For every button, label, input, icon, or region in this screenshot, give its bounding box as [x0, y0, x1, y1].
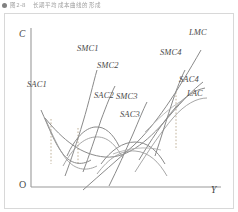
origin-label: O	[19, 180, 26, 189]
figure-caption-number: 图2-8	[10, 2, 26, 9]
screenshot-root: 图2-8 长期平均成本曲线的形成	[0, 0, 238, 212]
x-axis-label: Y	[211, 186, 216, 195]
curve-label-lac: LAC	[187, 89, 203, 98]
curve-label-sac4: SAC4	[179, 75, 199, 84]
figure-caption-title: 长期平均成本曲线的形成	[33, 2, 101, 9]
curve-label-smc3: SMC3	[116, 92, 138, 101]
y-axis-label: C	[19, 30, 25, 39]
curve-label-smc4: SMC4	[160, 48, 182, 57]
axes	[31, 28, 221, 187]
curve-label-sac3: SAC3	[120, 110, 140, 119]
curve-label-lmc: LMC	[189, 28, 207, 37]
cost-curves-plot: C Y O SAC1 SAC2 SAC3 SAC4 SMC1 SMC2 SMC3…	[5, 14, 233, 208]
chart-frame: C Y O SAC1 SAC2 SAC3 SAC4 SMC1 SMC2 SMC3…	[4, 13, 234, 209]
curve-label-sac1: SAC1	[27, 80, 47, 89]
bullet-dot-icon	[2, 3, 7, 8]
curve-label-sac2: SAC2	[94, 91, 114, 100]
curve-sac4	[139, 88, 205, 160]
curve-sac1	[41, 110, 91, 163]
curve-sac4-tail	[135, 98, 207, 172]
curve-label-smc2: SMC2	[97, 61, 119, 70]
figure-caption-strip: 图2-8 长期平均成本曲线的形成	[0, 0, 238, 11]
curve-label-smc1: SMC1	[77, 44, 99, 53]
curve-sac3-tail	[97, 151, 167, 176]
